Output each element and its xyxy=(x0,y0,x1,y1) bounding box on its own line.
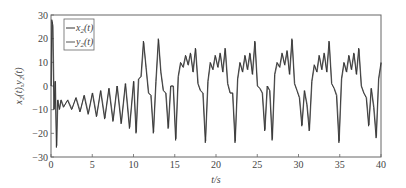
x-tick-label: 15 xyxy=(170,159,180,170)
y-tick-label: 20 xyxy=(38,33,48,44)
y-tick-label: −10 xyxy=(32,104,48,115)
line-chart: 3020100−10−20−30 0510152025303540 x2(t) … xyxy=(0,0,406,188)
y-tick-label: 10 xyxy=(38,57,48,68)
x-axis-label: t/s xyxy=(211,174,221,185)
x-tick-label: 35 xyxy=(335,159,345,170)
x-tick-label: 25 xyxy=(252,159,262,170)
y-axis-label: x₂(t),y₂(t) xyxy=(13,67,25,106)
x-tick-label: 0 xyxy=(49,159,54,170)
plot-frame xyxy=(51,15,381,157)
x-tick-label: 30 xyxy=(294,159,304,170)
y-tick-label: −20 xyxy=(32,128,48,139)
y-tick-label: −30 xyxy=(32,152,48,163)
x-tick-label: 5 xyxy=(90,159,95,170)
y-tick-label: 0 xyxy=(43,81,48,92)
legend: x2(t) y2(t) xyxy=(64,19,94,50)
x-tick-label: 20 xyxy=(211,159,221,170)
y-tick-label: 30 xyxy=(38,10,48,21)
x-tick-label: 10 xyxy=(129,159,139,170)
x-tick-label: 40 xyxy=(376,159,386,170)
